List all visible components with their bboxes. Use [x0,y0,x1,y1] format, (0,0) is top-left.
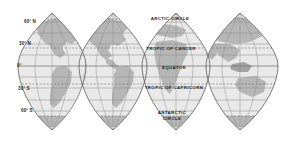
lat-label-0: 0° [17,63,22,68]
label-antarctic-circle-line2: CIRCLE [163,116,181,121]
label-equator: EQUATOR [162,65,186,70]
lat-label-30s: 30° S [18,86,30,91]
label-tropic-of-capricorn: TROPIC OF CAPRICORN [145,85,203,90]
lat-label-30n: 30° N [19,41,32,46]
lat-label-60s: 60° S [21,108,33,113]
world-map-figure: 60° N 30° N 0° 30° S 60° S ARCTIC CIRCLE… [0,0,295,141]
lat-label-60n: 60° N [24,19,37,24]
label-arctic-circle: ARCTIC CIRCLE [151,16,190,21]
land-greenland [126,15,143,30]
label-tropic-of-cancer: TROPIC OF CANCER [146,46,196,51]
label-antarctic-circle-line1: ANTARCTIC [158,110,187,115]
map-canvas: 60° N 30° N 0° 30° S 60° S ARCTIC CIRCLE… [0,0,295,141]
